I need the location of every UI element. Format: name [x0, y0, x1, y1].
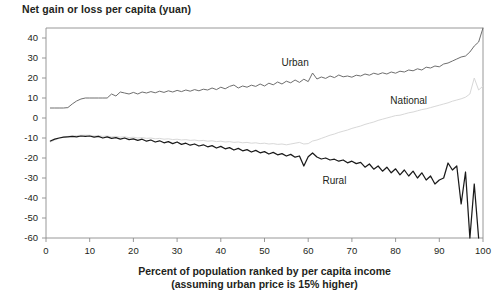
y-tick-label: -10	[24, 132, 38, 143]
x-tick-label: 20	[128, 245, 139, 256]
x-tick-label: 70	[347, 245, 358, 256]
x-tick-label: 40	[216, 245, 227, 256]
y-tick-label: 40	[27, 32, 38, 43]
series-label-rural: Rural	[322, 175, 346, 186]
y-tick-label: -30	[24, 172, 38, 183]
x-tick-label: 0	[43, 245, 48, 256]
y-tick-label: 30	[27, 52, 38, 63]
y-tick-label: -40	[24, 192, 38, 203]
x-tick-label: 10	[84, 245, 95, 256]
chart-plot-area: 403020100-10-20-30-40-50-600102030405060…	[0, 0, 501, 302]
x-tick-label: 50	[259, 245, 270, 256]
x-axis-caption-line1: Percent of population ranked by per capi…	[138, 265, 391, 277]
x-tick-label: 100	[475, 245, 491, 256]
y-tick-label: -20	[24, 152, 38, 163]
y-tick-label: -50	[24, 212, 38, 223]
chart-container: Net gain or loss per capita (yuan) 40302…	[0, 0, 501, 302]
y-tick-label: 10	[27, 92, 38, 103]
series-line-national	[50, 78, 483, 145]
x-tick-label: 80	[390, 245, 401, 256]
series-label-national: National	[390, 95, 427, 106]
x-axis-caption: Percent of population ranked by per capi…	[138, 265, 391, 290]
series-line-rural	[50, 136, 478, 238]
x-tick-label: 60	[303, 245, 314, 256]
y-tick-label: 20	[27, 72, 38, 83]
y-tick-label: -60	[24, 232, 38, 243]
series-label-urban: Urban	[281, 57, 308, 68]
series-layer	[50, 28, 483, 238]
axes-layer: 403020100-10-20-30-40-50-600102030405060…	[24, 28, 491, 256]
x-tick-label: 30	[172, 245, 183, 256]
x-tick-label: 90	[434, 245, 445, 256]
y-tick-label: 0	[33, 112, 38, 123]
x-axis-caption-line2: (assuming urban price is 15% higher)	[171, 278, 358, 290]
